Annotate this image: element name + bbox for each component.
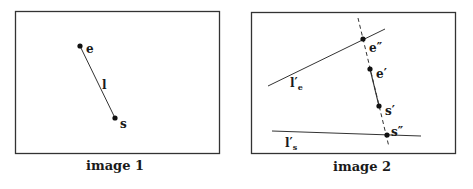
panel-image-2: e″ e′ s′ s″ l′e l′s image 2 bbox=[252, 13, 456, 175]
label-e-prime: e′ bbox=[376, 67, 387, 81]
caption-image-2: image 2 bbox=[333, 159, 391, 174]
label-l-e: l′e bbox=[290, 76, 303, 92]
label-s-double-prime: s″ bbox=[391, 125, 404, 139]
caption-image-1: image 1 bbox=[86, 158, 144, 173]
line-l-e bbox=[268, 29, 385, 86]
point-s-prime bbox=[376, 103, 381, 108]
segment-l bbox=[80, 46, 115, 118]
point-e bbox=[77, 43, 82, 48]
point-e-prime bbox=[367, 66, 372, 71]
panel-image-1: e s l image 1 bbox=[16, 12, 220, 174]
diagram-canvas: e s l image 1 e″ e′ s′ s″ l′e l′s image … bbox=[0, 0, 473, 189]
label-e-double-prime: e″ bbox=[369, 41, 383, 55]
label-l-s-sub: s bbox=[293, 142, 298, 152]
frame-image-1 bbox=[16, 12, 220, 154]
label-s-prime: s′ bbox=[385, 104, 395, 118]
point-e-double-prime bbox=[360, 36, 365, 41]
point-s bbox=[112, 115, 117, 120]
label-l-s: l′s bbox=[285, 136, 298, 152]
label-l: l bbox=[102, 78, 107, 92]
label-s: s bbox=[120, 117, 127, 131]
label-l-e-sub: e bbox=[298, 82, 303, 92]
label-l-e-base: l′ bbox=[290, 76, 298, 90]
label-e: e bbox=[86, 42, 94, 56]
label-l-s-base: l′ bbox=[285, 136, 293, 150]
frame-image-2 bbox=[252, 13, 456, 154]
point-s-double-prime bbox=[384, 132, 389, 137]
